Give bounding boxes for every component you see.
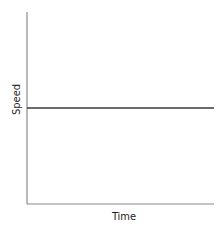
- x-axis-label: Time: [104, 210, 144, 223]
- chart-canvas: [0, 0, 224, 230]
- y-axis-label: Speed: [9, 85, 25, 115]
